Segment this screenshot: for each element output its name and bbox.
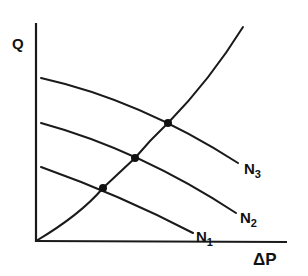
chart: Q ΔP N3 N2 N1 [0, 0, 308, 276]
curve-n2 [41, 123, 236, 213]
label-n3: N3 [244, 160, 261, 180]
intersection-point-n2 [131, 154, 139, 162]
x-axis [35, 241, 287, 242]
system-curve [36, 27, 243, 241]
intersection-point-n3 [164, 119, 172, 127]
y-axis-label: Q [12, 35, 24, 52]
x-axis-label: ΔP [253, 250, 277, 269]
label-n1: N1 [196, 228, 213, 248]
intersection-point-n1 [99, 184, 107, 192]
label-n2: N2 [240, 209, 257, 229]
curve-n3 [41, 78, 238, 163]
